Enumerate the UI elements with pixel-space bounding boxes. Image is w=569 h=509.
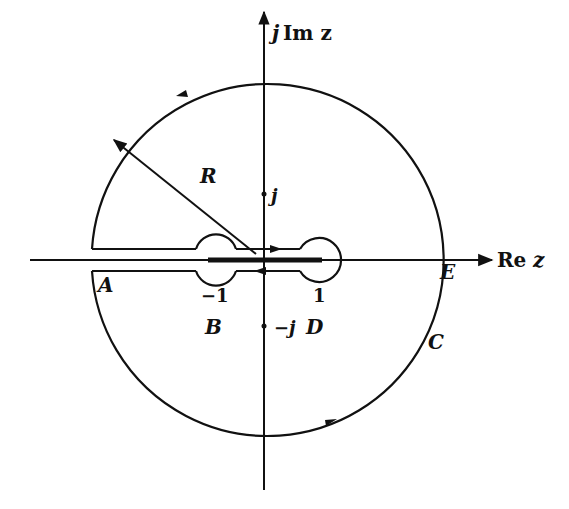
arrow-lower-middle xyxy=(254,267,266,275)
contour-diagram: j Im z Re z R j −j −1 1 A B C D E xyxy=(0,0,569,509)
small-circle-left-upper xyxy=(196,234,236,249)
real-axis-label-z: z xyxy=(532,248,545,272)
real-axis-label-re: Re xyxy=(497,248,526,272)
point-minus-j xyxy=(262,324,267,329)
label-minus-j: −j xyxy=(274,317,296,338)
label-minus-one: −1 xyxy=(201,285,229,306)
label-radius-R: R xyxy=(199,164,217,188)
label-D: D xyxy=(305,315,324,339)
label-A: A xyxy=(96,273,114,297)
arrow-upper-middle xyxy=(270,245,282,253)
small-circle-left-lower xyxy=(196,271,236,286)
label-one: 1 xyxy=(313,285,326,306)
imag-axis-label: Im z xyxy=(283,21,332,45)
label-j: j xyxy=(268,185,278,206)
label-B: B xyxy=(204,315,222,339)
arrow-outer-top xyxy=(176,90,188,97)
radius-line xyxy=(114,140,256,254)
label-E: E xyxy=(439,260,456,284)
point-j xyxy=(262,192,267,197)
label-C: C xyxy=(428,330,444,354)
imag-axis-label-j: j xyxy=(268,21,280,45)
